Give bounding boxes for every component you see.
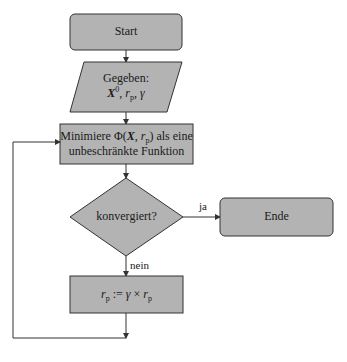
input-label: Gegeben: X0, rp, γ: [70, 71, 182, 101]
update-label: rp := γ × rp: [70, 287, 183, 302]
minimize-line1: Minimiere Φ(X, rp) als eine: [60, 129, 193, 144]
end-label: Ende: [220, 209, 333, 224]
x-symbol: X: [127, 129, 135, 143]
times-operator: ×: [131, 287, 144, 301]
flowchart-canvas: [0, 0, 347, 362]
assign-operator: :=: [110, 287, 126, 301]
minimize-label: Minimiere Φ(X, rp) als eine unbeschränkt…: [60, 129, 193, 159]
yes-label: ja: [195, 199, 211, 214]
minimize-line2: unbeschränkte Funktion: [60, 144, 193, 159]
minimize-post: ) als eine: [149, 129, 192, 143]
input-line1: Gegeben:: [70, 71, 182, 86]
start-label: Start: [70, 24, 182, 39]
gamma-symbol: γ: [140, 86, 145, 100]
r-subscript-2: p: [148, 294, 152, 303]
minimize-pre: Minimiere Φ(: [60, 129, 126, 143]
decision-label: konvergiert?: [70, 209, 183, 224]
no-label: nein: [130, 258, 156, 273]
input-line2: X0, rp, γ: [70, 86, 182, 101]
